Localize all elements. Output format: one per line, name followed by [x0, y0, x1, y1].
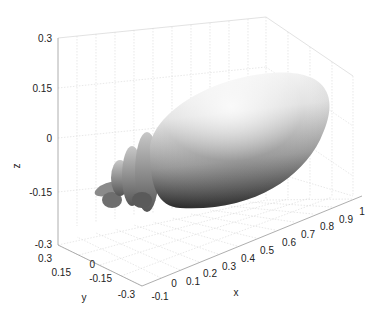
svg-text:1: 1: [359, 206, 365, 217]
svg-text:0: 0: [171, 278, 177, 289]
svg-text:0.4: 0.4: [241, 253, 255, 264]
svg-text:0.9: 0.9: [339, 214, 353, 225]
svg-text:0.15: 0.15: [52, 267, 72, 278]
x-axis-label: x: [234, 287, 239, 298]
svg-text:0.6: 0.6: [282, 237, 296, 248]
svg-text:0.3: 0.3: [222, 261, 236, 272]
plot-canvas: 0.3 0.15 0 -0.15 -0.3 z 0.3 0.15 0 -0.15…: [0, 0, 380, 320]
svg-text:0: 0: [89, 259, 95, 270]
svg-text:0.8: 0.8: [320, 221, 334, 232]
main-lobe: [150, 72, 330, 208]
svg-text:0.3: 0.3: [38, 253, 52, 264]
svg-text:0.3: 0.3: [38, 33, 52, 44]
side-lobes: [93, 132, 159, 212]
y-axis-label: y: [82, 292, 87, 303]
z-axis-ticks: 0.3 0.15 0 -0.15 -0.3: [29, 33, 52, 250]
surface-plot: 0.3 0.15 0 -0.15 -0.3 z 0.3 0.15 0 -0.15…: [0, 0, 380, 320]
svg-text:-0.15: -0.15: [89, 273, 112, 284]
svg-text:-0.15: -0.15: [29, 187, 52, 198]
svg-text:-0.3: -0.3: [118, 289, 136, 300]
svg-text:-0.3: -0.3: [35, 239, 53, 250]
svg-text:0.7: 0.7: [301, 229, 315, 240]
svg-text:0.15: 0.15: [33, 83, 53, 94]
svg-text:0: 0: [46, 133, 52, 144]
y-axis-ticks: 0.3 0.15 0 -0.15 -0.3: [38, 253, 135, 300]
svg-text:-0.1: -0.1: [151, 291, 169, 302]
x-axis-ticks: -0.1 0 0.1 0.2 0.3 0.4 0.5 0.6 0.7 0.8 0…: [151, 206, 365, 302]
svg-text:0.2: 0.2: [203, 268, 217, 279]
z-axis-label: z: [11, 164, 22, 169]
svg-text:0.1: 0.1: [186, 276, 200, 287]
svg-text:0.5: 0.5: [260, 245, 274, 256]
